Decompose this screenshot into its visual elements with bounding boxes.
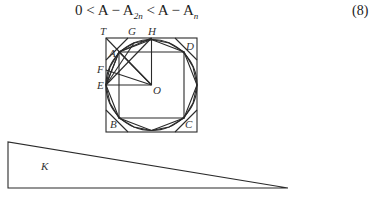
label-A: A [108, 47, 116, 59]
label-D: D [185, 40, 194, 52]
label-H: H [147, 25, 157, 37]
label-B: B [110, 118, 117, 130]
label-G: G [128, 25, 136, 37]
right-triangle-K: K [8, 142, 288, 188]
line-A-H [119, 38, 152, 52]
label-O: O [153, 84, 161, 96]
geometry-figure: T G H D A F E O B C K [0, 0, 381, 202]
label-F: F [96, 63, 104, 75]
triangle-shape [8, 142, 288, 188]
label-K: K [40, 160, 49, 172]
label-C: C [185, 118, 193, 130]
label-E: E [96, 79, 104, 91]
square-circle-diagram [106, 38, 197, 132]
label-T: T [100, 25, 107, 37]
